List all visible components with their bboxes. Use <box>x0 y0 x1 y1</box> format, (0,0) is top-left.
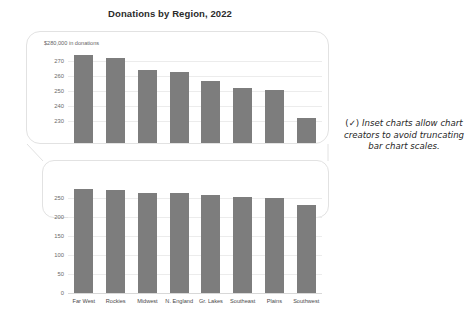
y-tick-label-top-230: 230 <box>38 118 64 124</box>
bar-top-southeast <box>233 88 252 143</box>
bar-top-gr-lakes <box>201 81 220 144</box>
bar-top-n-england <box>170 72 189 144</box>
page-title: Donations by Region, 2022 <box>0 8 340 19</box>
bar-bottom-far-west <box>74 189 93 293</box>
bar-top-southwest <box>297 118 316 143</box>
chart-figure: Donations by Region, 2022 $280,000 in do… <box>0 0 475 319</box>
y-tick-label-bottom-200: 200 <box>38 214 64 220</box>
bar-top-rockies <box>106 58 125 143</box>
y-tick-label-top-260: 260 <box>38 73 64 79</box>
bar-bottom-southeast <box>233 197 252 293</box>
y-tick-label-bottom-100: 100 <box>38 252 64 258</box>
bar-top-midwest <box>138 70 157 143</box>
gridline-bottom-0 <box>68 293 322 294</box>
annotation-note: (✓) Inset charts allow chart creators to… <box>336 118 472 153</box>
y-tick-label-bottom-0: 0 <box>38 290 64 296</box>
check-icon: (✓) <box>345 118 359 128</box>
y-tick-label-bottom-50: 50 <box>38 271 64 277</box>
bar-bottom-n-england <box>170 193 189 293</box>
y-tick-label-top-270: 270 <box>38 58 64 64</box>
bar-bottom-midwest <box>138 193 157 293</box>
annotation-text: Inset charts allow chart creators to avo… <box>344 118 464 151</box>
y-tick-label-bottom-250: 250 <box>38 195 64 201</box>
bar-bottom-plains <box>265 198 284 293</box>
y-tick-label-top-240: 240 <box>38 103 64 109</box>
bar-top-plains <box>265 90 284 144</box>
y-tick-label-bottom-150: 150 <box>38 233 64 239</box>
bar-top-far-west <box>74 55 93 143</box>
y-axis-note-top: $280,000 in donations <box>44 40 99 46</box>
bar-bottom-southwest <box>297 205 316 293</box>
x-tick-label-southwest: Southwest <box>286 298 326 305</box>
bar-bottom-rockies <box>106 190 125 293</box>
y-tick-label-top-250: 250 <box>38 88 64 94</box>
bar-bottom-gr-lakes <box>201 195 220 293</box>
